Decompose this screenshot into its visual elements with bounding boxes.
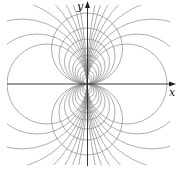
right-circle (87, 0, 177, 171)
right-circle (87, 0, 177, 171)
right-circle (87, 0, 177, 171)
field-lines-diagram (0, 0, 177, 171)
y-axis-arrow-icon (85, 1, 90, 8)
right-circle (87, 0, 177, 171)
right-circle (87, 0, 177, 169)
x-axis-label: x (169, 87, 175, 98)
left-circle (0, 0, 87, 169)
field-line-circles (0, 0, 177, 171)
y-axis-label: y (77, 1, 83, 12)
